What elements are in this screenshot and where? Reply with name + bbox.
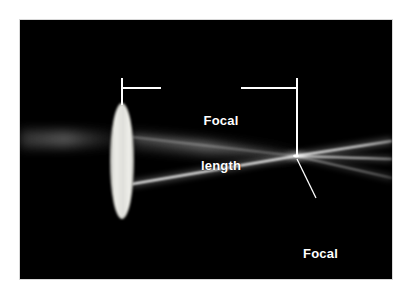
upper-beam-diverging: [296, 141, 392, 156]
focal-point-label: Focal point: [303, 216, 373, 279]
optics-figure: Focal length Focal point: [0, 0, 411, 297]
focal-length-label: Focal length: [182, 83, 260, 203]
focal-point-line1: Focal: [303, 246, 373, 261]
focal-length-line1: Focal: [182, 113, 260, 128]
convex-lens: [110, 103, 134, 219]
incoming-haze-band: [20, 130, 122, 148]
focal-length-line2: length: [182, 158, 260, 173]
photo-plate: Focal length Focal point: [20, 20, 392, 279]
focal-point-glow: [287, 153, 305, 158]
focal-point-leader-line: [297, 159, 316, 198]
